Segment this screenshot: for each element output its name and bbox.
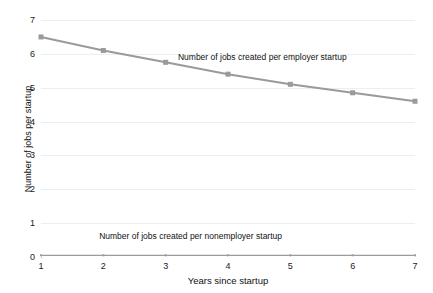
data-point-marker — [413, 99, 418, 104]
x-tick-label: 4 — [225, 262, 230, 271]
series-1 — [40, 254, 416, 256]
y-axis-tick-labels: 01234567 — [0, 20, 35, 257]
y-tick-label: 0 — [30, 253, 35, 262]
x-axis-title: Years since startup — [41, 275, 415, 286]
data-point-marker — [350, 90, 355, 95]
data-point-marker — [165, 254, 167, 256]
y-tick-label: 5 — [30, 83, 35, 92]
y-tick-label: 4 — [30, 117, 35, 126]
y-tick-label: 2 — [30, 185, 35, 194]
series-label-0: Number of jobs created per employer star… — [178, 52, 347, 62]
x-tick-label: 1 — [38, 262, 43, 271]
data-point-marker — [352, 254, 354, 256]
x-tick-label: 6 — [350, 262, 355, 271]
y-tick-label: 3 — [30, 151, 35, 160]
data-point-marker — [226, 72, 231, 77]
plot-area: Number of jobs created per employer star… — [41, 20, 415, 257]
data-point-marker — [163, 60, 168, 65]
chart-container: Number of jobs per startup 01234567 Numb… — [0, 0, 433, 293]
data-point-marker — [39, 34, 44, 39]
series-label-1: Number of jobs created per nonemployer s… — [99, 231, 282, 241]
data-point-marker — [414, 254, 416, 256]
x-tick-label: 2 — [101, 262, 106, 271]
data-point-marker — [40, 254, 42, 256]
x-tick-label: 5 — [288, 262, 293, 271]
x-axis-tick-labels: 1234567 — [41, 262, 415, 274]
data-point-marker — [227, 254, 229, 256]
data-point-marker — [288, 82, 293, 87]
x-tick-label: 7 — [412, 262, 417, 271]
series-line — [41, 37, 415, 101]
data-point-marker — [289, 254, 291, 256]
data-point-marker — [101, 48, 106, 53]
series-0 — [39, 34, 418, 103]
y-tick-label: 7 — [30, 16, 35, 25]
x-tick-label: 3 — [163, 262, 168, 271]
y-tick-label: 6 — [30, 49, 35, 58]
data-point-marker — [102, 254, 104, 256]
y-tick-label: 1 — [30, 219, 35, 228]
